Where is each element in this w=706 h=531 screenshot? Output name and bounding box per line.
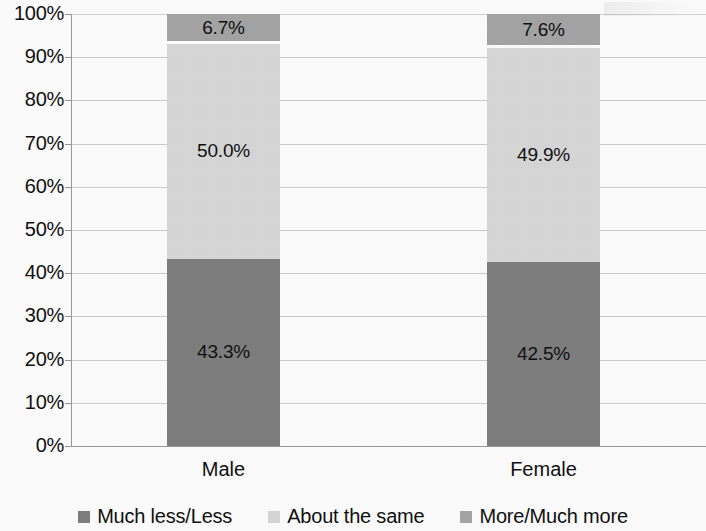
x-axis-line (71, 446, 706, 447)
legend-item[interactable]: About the same (268, 506, 424, 527)
legend-item[interactable]: More/Much more (460, 506, 627, 527)
y-axis-tick-label: 90% (2, 46, 64, 66)
legend-swatch-icon (78, 511, 90, 523)
bar-male[interactable]: 43.3%50.0%6.7% (167, 14, 280, 446)
legend-swatch-icon (460, 511, 472, 523)
y-axis-tick-label: 40% (2, 262, 64, 282)
legend-label: About the same (287, 506, 424, 527)
y-axis-tick (65, 360, 72, 361)
y-axis-tick-label: 50% (2, 219, 64, 239)
legend-label: Much less/Less (97, 506, 232, 527)
y-axis-tick (65, 187, 72, 188)
bar-segment-label: 50.0% (167, 141, 280, 160)
bar-female[interactable]: 42.5%49.9%7.6% (487, 14, 600, 446)
y-axis-tick-label: 60% (2, 176, 64, 196)
y-axis-tick-label: 0% (2, 435, 64, 455)
y-axis-tick-label: 10% (2, 392, 64, 412)
chart-legend: Much less/LessAbout the sameMore/Much mo… (0, 502, 706, 531)
y-axis-tick-label: 70% (2, 133, 64, 153)
y-axis-tick-label: 20% (2, 349, 64, 369)
y-axis-tick (65, 446, 72, 447)
y-axis-tick (65, 230, 72, 231)
y-axis-tick (65, 144, 72, 145)
legend-label: More/Much more (479, 506, 627, 527)
bar-segment-label: 7.6% (487, 20, 600, 39)
y-axis-tick (65, 273, 72, 274)
y-axis-tick (65, 14, 72, 15)
bar-segment-label: 43.3% (167, 342, 280, 361)
segment-divider (167, 41, 280, 44)
y-axis-tick-label: 100% (2, 3, 64, 23)
bar-segment-label: 42.5% (487, 344, 600, 363)
bar-segment-label: 49.9% (487, 145, 600, 164)
y-axis-labels: 100%90%80%70%60%50%40%30%20%10%0% (0, 0, 64, 531)
legend-item[interactable]: Much less/Less (78, 506, 232, 527)
y-axis-tick-label: 30% (2, 305, 64, 325)
x-axis-label-male: Male (134, 458, 314, 480)
legend-swatch-icon (268, 511, 280, 523)
stacked-bar-chart: 100%90%80%70%60%50%40%30%20%10%0% 43.3%5… (0, 0, 706, 531)
segment-divider (487, 45, 600, 48)
x-axis-label-female: Female (454, 458, 634, 480)
bar-segment-label: 6.7% (167, 18, 280, 37)
y-axis-tick-label: 80% (2, 89, 64, 109)
y-axis-tick (65, 57, 72, 58)
y-axis-tick (65, 403, 72, 404)
y-axis-tick (65, 100, 72, 101)
y-axis-tick (65, 316, 72, 317)
